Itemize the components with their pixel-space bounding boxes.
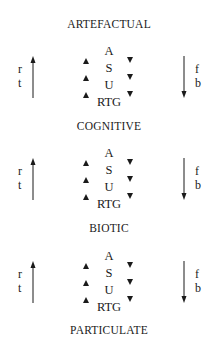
triangle-down-icon <box>127 176 133 182</box>
triangle-up-icon <box>83 280 89 286</box>
arrow-up-icon <box>29 261 37 303</box>
arrow-up-icon <box>29 56 37 98</box>
right-label-f: f <box>195 63 199 76</box>
triangle-down-icon <box>127 296 133 302</box>
triangle-down-icon <box>127 193 133 199</box>
triangle-up-icon <box>83 194 89 200</box>
triangle-down-icon <box>127 91 133 97</box>
triangle-up-icon <box>83 177 89 183</box>
triangle-up-icon <box>83 160 89 166</box>
left-label-t: t <box>18 179 21 192</box>
arrow-down-icon <box>180 56 188 98</box>
triangle-down-icon <box>127 159 133 165</box>
triangle-down-icon <box>127 262 133 268</box>
arrow-up-icon <box>29 158 37 200</box>
right-label-b: b <box>195 282 201 295</box>
connector-block-1: A S U RTG r t f b <box>0 44 218 114</box>
right-label-f: f <box>195 268 199 281</box>
arrow-down-icon <box>180 261 188 303</box>
arrow-down-icon <box>180 158 188 200</box>
right-label-b: b <box>195 77 201 90</box>
triangle-up-icon <box>83 297 89 303</box>
triangle-up-icon <box>83 263 89 269</box>
left-label-r: r <box>18 165 22 178</box>
level-title-cognitive: COGNITIVE <box>0 120 218 132</box>
connector-block-3: A S U RTG r t f b <box>0 249 218 319</box>
triangle-up-icon <box>83 58 89 64</box>
triangle-up-icon <box>83 92 89 98</box>
left-label-r: r <box>18 63 22 76</box>
level-title-biotic: BIOTIC <box>0 222 218 234</box>
connector-block-2: A S U RTG r t f b <box>0 146 218 216</box>
left-label-t: t <box>18 282 21 295</box>
triangle-up-icon <box>83 75 89 81</box>
left-label-t: t <box>18 77 21 90</box>
triangle-down-icon <box>127 74 133 80</box>
triangle-down-icon <box>127 57 133 63</box>
level-title-particulate: PARTICULATE <box>0 324 218 336</box>
level-title-artefactual: ARTEFACTUAL <box>0 18 218 30</box>
left-label-r: r <box>18 268 22 281</box>
right-label-b: b <box>195 179 201 192</box>
triangle-down-icon <box>127 279 133 285</box>
right-label-f: f <box>195 165 199 178</box>
